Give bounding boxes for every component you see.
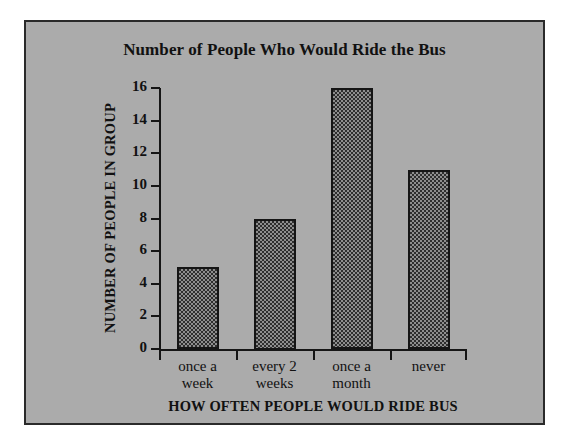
chart-panel: Number of People Who Would Ride the Bus <box>24 20 545 425</box>
chart-title: Number of People Who Would Ride the Bus <box>26 40 543 60</box>
chart-screenshot: Number of People Who Would Ride the Bus … <box>0 0 570 447</box>
